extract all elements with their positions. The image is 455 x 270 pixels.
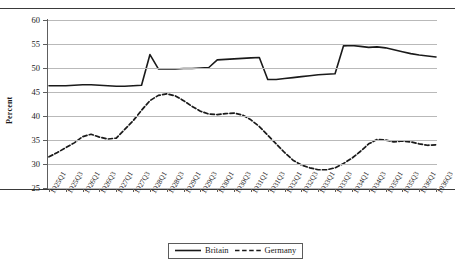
- gridline: [48, 20, 437, 21]
- series-line-germany: [49, 94, 436, 170]
- x-tick-mark: [436, 189, 437, 192]
- gridline: [48, 140, 437, 141]
- plot-area: [48, 20, 437, 188]
- x-tick-mark: [301, 189, 302, 192]
- y-tick-label: 40: [18, 112, 40, 121]
- x-tick-mark: [49, 189, 50, 192]
- series-line-britain: [49, 45, 436, 86]
- x-tick-mark: [234, 189, 235, 192]
- x-tick-mark: [402, 189, 403, 192]
- gridline: [48, 92, 437, 93]
- gridline: [48, 188, 437, 189]
- legend-swatch-solid: [175, 247, 201, 254]
- x-tick-mark: [352, 189, 353, 192]
- chart-figure: Percent 6055504540353025 1925Q11925Q3192…: [0, 0, 455, 270]
- gridline: [48, 164, 437, 165]
- x-tick-mark: [217, 189, 218, 192]
- x-tick-mark: [386, 189, 387, 192]
- y-axis-title: Percent: [2, 75, 16, 145]
- x-tick-mark: [251, 189, 252, 192]
- x-tick-mark: [285, 189, 286, 192]
- x-tick-mark: [268, 189, 269, 192]
- y-tick-label: 35: [18, 136, 40, 145]
- y-tick-label: 50: [18, 64, 40, 73]
- y-tick-label: 30: [18, 160, 40, 169]
- x-tick-mark: [318, 189, 319, 192]
- x-tick-label: 1936Q3: [436, 170, 454, 194]
- x-tick-mark: [369, 189, 370, 192]
- x-tick-mark: [419, 189, 420, 192]
- x-tick-mark: [335, 189, 336, 192]
- gridline: [48, 44, 437, 45]
- chart-legend: Britain Germany: [168, 243, 303, 259]
- gridline: [48, 68, 437, 69]
- x-tick-mark: [66, 189, 67, 192]
- legend-item-britain: Britain: [175, 246, 229, 255]
- y-tick-label: 55: [18, 40, 40, 49]
- legend-swatch-dashed: [235, 247, 261, 254]
- y-tick-label: 45: [18, 88, 40, 97]
- legend-label-britain: Britain: [205, 246, 229, 255]
- y-tick-label: 25: [18, 184, 40, 193]
- x-tick-mark: [167, 189, 168, 192]
- legend-label-germany: Germany: [265, 246, 297, 255]
- x-tick-mark: [116, 189, 117, 192]
- x-tick-mark: [99, 189, 100, 192]
- series-lines: [48, 20, 437, 188]
- x-tick-mark: [200, 189, 201, 192]
- top-rule: [0, 8, 455, 9]
- legend-item-germany: Germany: [235, 246, 297, 255]
- x-tick-mark: [133, 189, 134, 192]
- x-tick-mark: [184, 189, 185, 192]
- gridline: [48, 116, 437, 117]
- y-tick-label: 60: [18, 16, 40, 25]
- x-tick-mark: [83, 189, 84, 192]
- x-tick-mark: [150, 189, 151, 192]
